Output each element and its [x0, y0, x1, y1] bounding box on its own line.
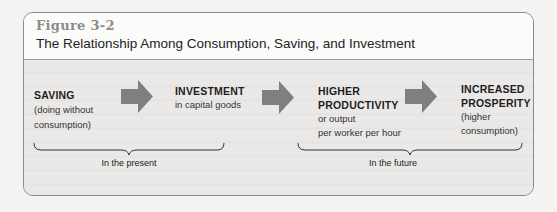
- right-arrow-icon: [405, 80, 437, 113]
- step-detail: or output: [318, 112, 401, 126]
- step-heading: PROSPERITY: [461, 96, 531, 110]
- step-increased-prosperity: INCREASED PROSPERITY (higher consumption…: [461, 82, 531, 138]
- step-investment: INVESTMENT in capital goods: [175, 84, 245, 112]
- step-detail: in capital goods: [175, 98, 245, 112]
- step-detail: consumption): [461, 124, 531, 138]
- step-heading: INVESTMENT: [175, 84, 245, 98]
- step-detail: (higher: [461, 110, 531, 124]
- step-heading: PRODUCTIVITY: [318, 98, 401, 112]
- group-label-future: In the future: [369, 158, 417, 168]
- step-heading: INCREASED: [461, 82, 531, 96]
- right-arrow-icon: [121, 80, 153, 113]
- figure-title: The Relationship Among Consumption, Savi…: [36, 36, 415, 51]
- brace-present: [33, 142, 225, 156]
- step-detail: per worker per hour: [318, 126, 401, 140]
- figure-number: Figure 3-2: [36, 18, 115, 33]
- right-arrow-icon: [262, 81, 294, 114]
- diagram-area: SAVING (doing without consumption) INVES…: [24, 60, 533, 195]
- step-heading: SAVING: [34, 88, 93, 102]
- step-heading: HIGHER: [318, 84, 401, 98]
- brace-future: [297, 142, 523, 156]
- group-label-present: In the present: [101, 158, 156, 168]
- step-detail: (doing without: [34, 102, 93, 117]
- step-higher-productivity: HIGHER PRODUCTIVITY or output per worker…: [318, 84, 401, 140]
- figure-header: Figure 3-2 The Relationship Among Consum…: [24, 13, 533, 60]
- step-saving: SAVING (doing without consumption): [34, 88, 93, 132]
- step-detail: consumption): [34, 117, 93, 132]
- figure-card: Figure 3-2 The Relationship Among Consum…: [23, 12, 534, 196]
